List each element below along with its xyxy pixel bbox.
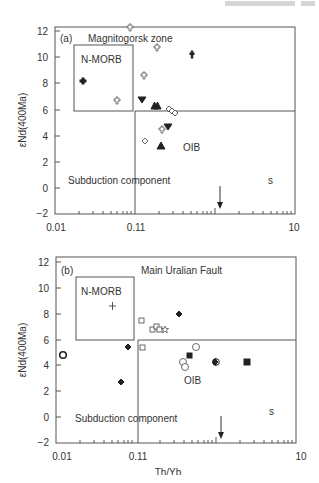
filled-diamond-icon <box>125 344 131 350</box>
n-morb-label: N-MORB <box>81 54 122 65</box>
chart-title: Magnitogorsk zone <box>88 33 173 44</box>
filled-diamond-icon <box>176 311 182 317</box>
svg-text:8: 8 <box>42 78 48 89</box>
x-tick-10: 10 <box>288 222 300 233</box>
filled-diamond-icon <box>118 379 124 385</box>
open-star-icon <box>161 326 168 333</box>
subduction-label: Subduction component <box>68 175 171 186</box>
svg-text:12: 12 <box>38 257 50 268</box>
panel-label: (a) <box>60 33 72 44</box>
svg-text:0: 0 <box>42 183 48 194</box>
chart-a: 12 10 8 6 4 2 0 −2 0.01 0.11 10 Th/Yb εN… <box>0 0 319 240</box>
oib-region <box>138 340 296 443</box>
x-tick-0.11: 0.11 <box>129 451 148 462</box>
y-tick-labels: 12 10 8 6 4 2 0 −2 <box>37 26 49 219</box>
x-tick-0.11: 0.11 <box>127 222 146 233</box>
filled-square-icon <box>187 353 192 358</box>
svg-text:−2: −2 <box>38 437 50 448</box>
y-axis-label: εNd(400Ma) <box>17 93 28 147</box>
star-circle-icon <box>60 352 67 359</box>
svg-text:4: 4 <box>42 131 48 142</box>
plus-icon <box>109 302 116 310</box>
s-label: s <box>269 406 274 417</box>
n-morb-label: N-MORB <box>81 286 122 297</box>
x-tick-0.01: 0.01 <box>52 451 72 462</box>
panel-label: (b) <box>61 265 73 276</box>
y-ticks <box>56 262 61 417</box>
y-ticks <box>55 31 60 188</box>
svg-text:2: 2 <box>43 386 49 397</box>
svg-text:0: 0 <box>43 412 49 423</box>
svg-text:8: 8 <box>43 309 49 320</box>
svg-text:10: 10 <box>37 52 49 63</box>
subduction-label: Subduction component <box>75 413 178 424</box>
y-tick-labels: 12 10 8 6 4 2 0 −2 <box>38 257 50 448</box>
svg-text:10: 10 <box>38 283 50 294</box>
svg-text:4: 4 <box>43 360 49 371</box>
chart-b: 12 10 8 6 4 2 0 −2 0.01 0.11 10 Th/Yb εN… <box>0 240 319 475</box>
oib-label: OIB <box>183 142 201 153</box>
svg-text:12: 12 <box>37 26 49 37</box>
arrow-icon <box>217 186 223 209</box>
chart-title: Main Uralian Fault <box>141 265 222 276</box>
x-minor-ticks <box>80 437 292 443</box>
x-tick-0.01: 0.01 <box>46 222 66 233</box>
hatched-diamond-icon <box>166 106 178 116</box>
oib-label: OIB <box>184 375 202 386</box>
s-label: s <box>268 175 273 186</box>
svg-text:2: 2 <box>42 157 48 168</box>
half-circle-icon <box>213 359 220 366</box>
svg-text:6: 6 <box>43 335 49 346</box>
open-diamond-icon <box>142 138 148 144</box>
arrow-icon <box>218 416 224 439</box>
filled-cross-icon <box>190 51 194 58</box>
y-axis-label: εNd(400Ma) <box>17 323 28 377</box>
x-tick-10: 10 <box>295 451 307 462</box>
oib-region <box>135 111 295 214</box>
open-square-icon <box>139 318 162 350</box>
x-axis-label: Th/Yb <box>155 467 182 475</box>
filled-square-icon <box>244 359 250 365</box>
x-minor-ticks <box>79 208 291 214</box>
data-points <box>60 302 250 385</box>
triangle-up-icon <box>157 142 165 149</box>
filled-cross-icon <box>80 78 86 84</box>
triangle-down-icon <box>138 97 146 103</box>
svg-text:−2: −2 <box>37 208 49 219</box>
svg-text:6: 6 <box>42 105 48 116</box>
